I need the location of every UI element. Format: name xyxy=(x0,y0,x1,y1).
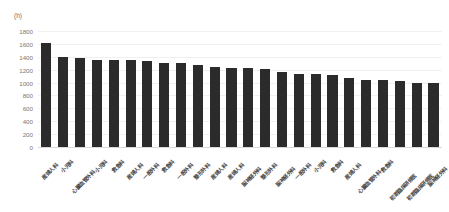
bar-series xyxy=(38,31,442,147)
y-tick-1200: 1200 xyxy=(19,66,33,73)
y-tick-200: 200 xyxy=(23,131,33,138)
bar xyxy=(243,68,253,147)
x-axis-label: 心臓血管外科 xyxy=(71,169,96,194)
bar xyxy=(327,75,337,147)
x-axis-label: 救急科 xyxy=(329,159,344,174)
y-tick-1800: 1800 xyxy=(19,28,33,35)
bar-slot xyxy=(408,31,425,147)
bar xyxy=(226,68,236,147)
bar xyxy=(210,67,220,147)
y-tick-0: 0 xyxy=(30,144,33,151)
bar-slot xyxy=(38,31,55,147)
bar xyxy=(311,74,321,147)
bar xyxy=(428,83,438,147)
bar-slot xyxy=(290,31,307,147)
x-axis-label: 一般外科 xyxy=(176,162,194,180)
plot-area xyxy=(38,31,442,147)
bar xyxy=(142,61,152,147)
x-axis-label: 産婦人科 xyxy=(41,162,59,180)
y-axis-unit-label: (h) xyxy=(14,12,22,19)
x-axis-label: 産婦人科 xyxy=(125,162,143,180)
y-axis-tick-labels: 180016001400120010008006004002000 xyxy=(0,31,36,147)
bar-slot xyxy=(391,31,408,147)
bar xyxy=(412,83,422,147)
bar-slot xyxy=(173,31,190,147)
bar xyxy=(176,63,186,147)
x-axis-label: 小児科 xyxy=(94,159,109,174)
bar xyxy=(126,60,136,147)
x-axis-label: 小児科 xyxy=(313,159,328,174)
bar-slot xyxy=(223,31,240,147)
bar-slot xyxy=(122,31,139,147)
x-axis-label: 産婦人科 xyxy=(209,162,227,180)
bar-slot xyxy=(55,31,72,147)
bar-slot xyxy=(105,31,122,147)
x-axis-label: 救急科 xyxy=(161,159,176,174)
x-axis-label: 小児科 xyxy=(60,159,75,174)
bar xyxy=(159,63,169,147)
x-axis-label: 産婦人科 xyxy=(344,162,362,180)
bar xyxy=(361,80,371,147)
y-tick-800: 800 xyxy=(23,92,33,99)
bar-slot xyxy=(139,31,156,147)
bar-slot xyxy=(257,31,274,147)
x-axis-label: 整形外科 xyxy=(193,162,211,180)
bar xyxy=(277,72,287,147)
bar-chart: (h) 180016001400120010008006004002000 産婦… xyxy=(0,0,449,212)
x-axis-label: 心臓血管外科 xyxy=(357,169,382,194)
x-axis-label: 救急科 xyxy=(380,159,395,174)
x-axis-label: 整形外科 xyxy=(260,162,278,180)
bar-slot xyxy=(375,31,392,147)
x-axis-label: 一般外科 xyxy=(294,162,312,180)
bar-slot xyxy=(156,31,173,147)
bar-slot xyxy=(206,31,223,147)
bar-slot xyxy=(341,31,358,147)
bar-slot xyxy=(358,31,375,147)
y-tick-600: 600 xyxy=(23,105,33,112)
bar xyxy=(294,74,304,147)
bar xyxy=(109,60,119,147)
bar xyxy=(92,60,102,147)
bar-slot xyxy=(324,31,341,147)
bar xyxy=(58,57,68,147)
bar-slot xyxy=(307,31,324,147)
y-tick-1400: 1400 xyxy=(19,53,33,60)
bar xyxy=(75,58,85,147)
bar-slot xyxy=(72,31,89,147)
y-tick-1000: 1000 xyxy=(19,79,33,86)
bar xyxy=(344,78,354,147)
bar xyxy=(260,69,270,147)
bar-slot xyxy=(88,31,105,147)
bar xyxy=(378,80,388,147)
bar-slot xyxy=(274,31,291,147)
y-tick-400: 400 xyxy=(23,118,33,125)
x-axis-label: 救急科 xyxy=(111,159,126,174)
x-axis-label: 一般外科 xyxy=(142,162,160,180)
bar xyxy=(193,65,203,147)
y-tick-1600: 1600 xyxy=(19,40,33,47)
x-axis-label: 産婦人科 xyxy=(226,162,244,180)
bar xyxy=(395,81,405,147)
bar xyxy=(41,43,51,147)
bar-slot xyxy=(425,31,442,147)
bar-slot xyxy=(240,31,257,147)
bar-slot xyxy=(189,31,206,147)
x-axis-category-labels: 産婦人科小児科心臓血管外科小児科救急科産婦人科一般外科救急科一般外科整形外科産婦… xyxy=(38,148,442,210)
